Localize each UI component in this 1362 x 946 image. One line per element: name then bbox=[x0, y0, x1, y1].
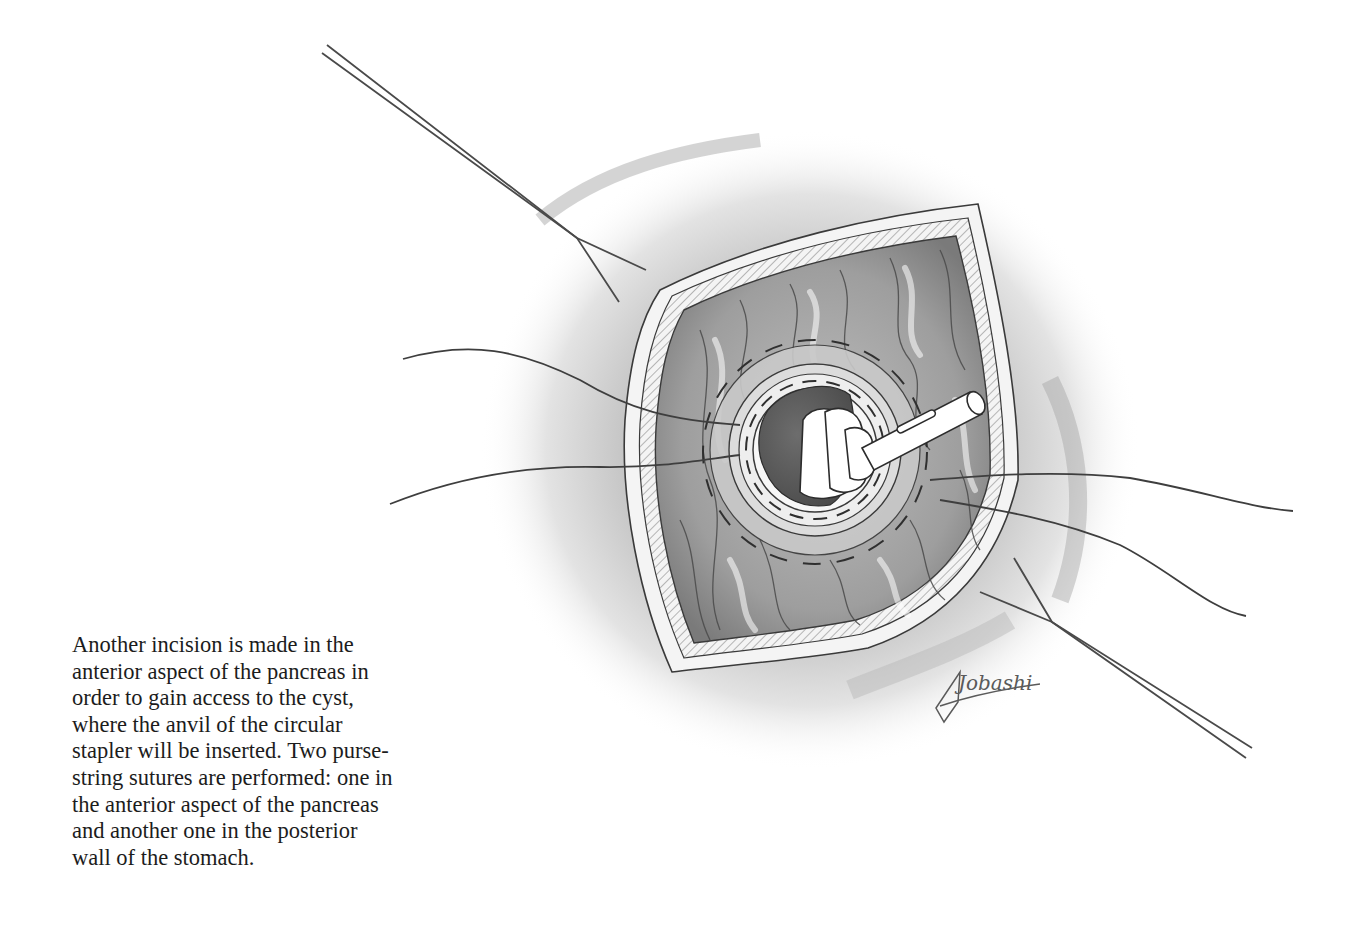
caption-line: the anterior aspect of the pancreas bbox=[72, 792, 432, 819]
caption-line: order to gain access to the cyst, bbox=[72, 685, 432, 712]
caption-line: stapler will be inserted. Two purse- bbox=[72, 738, 432, 765]
figure-caption: Another incision is made in the anterior… bbox=[72, 632, 432, 871]
signature-text: Jobashi bbox=[954, 671, 1032, 695]
caption-line: anterior aspect of the pancreas in bbox=[72, 659, 432, 686]
caption-line: Another incision is made in the bbox=[72, 632, 432, 659]
caption-line: where the anvil of the circular bbox=[72, 712, 432, 739]
caption-line: and another one in the posterior bbox=[72, 818, 432, 845]
caption-line: string sutures are performed: one in bbox=[72, 765, 432, 792]
caption-line: wall of the stomach. bbox=[72, 845, 432, 872]
